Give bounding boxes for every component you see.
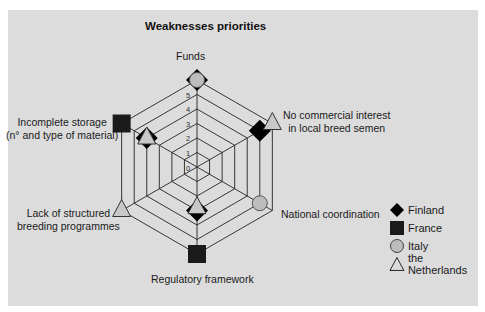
legend-item-finland: Finland xyxy=(389,201,485,219)
triangle-icon xyxy=(188,197,206,214)
chart-legend: Finland France Italy the Netherlands xyxy=(389,201,485,273)
axis-label-text: Funds xyxy=(176,50,205,62)
axis-label-text: (n° and type of material) xyxy=(6,129,118,142)
axis-label-no-commercial-interest: No commercial interest in local breed se… xyxy=(283,109,390,135)
legend-label: the Netherlands xyxy=(408,252,485,276)
circle-icon xyxy=(190,73,205,88)
svg-text:0: 0 xyxy=(186,164,190,173)
axis-label-funds: Funds xyxy=(176,50,205,63)
square-icon xyxy=(389,220,405,236)
axis-label-lack-of-breeding-programmes: Lack of structured breeding programmes xyxy=(17,207,120,233)
svg-text:3: 3 xyxy=(186,120,190,129)
axis-label-text: breeding programmes xyxy=(17,220,120,233)
svg-text:5: 5 xyxy=(186,91,190,100)
legend-item-the-netherlands: the Netherlands xyxy=(389,255,485,273)
svg-text:2: 2 xyxy=(186,134,190,143)
square-icon xyxy=(188,245,206,263)
circle-icon xyxy=(252,196,267,211)
triangle-icon xyxy=(263,113,281,130)
legend-item-france: France xyxy=(389,219,485,237)
axis-label-text: Incomplete storage xyxy=(6,116,118,129)
axis-label-text: Lack of structured xyxy=(17,207,120,220)
diamond-icon xyxy=(389,202,405,218)
svg-text:1: 1 xyxy=(186,149,190,158)
svg-text:4: 4 xyxy=(186,105,190,114)
circle-icon xyxy=(389,238,405,254)
radar-grid xyxy=(122,80,273,254)
axis-label-text: No commercial interest xyxy=(283,109,390,122)
axis-label-text: in local breed semen xyxy=(283,122,390,135)
legend-label: Italy xyxy=(408,240,428,252)
legend-label: France xyxy=(408,222,442,234)
legend-label: Finland xyxy=(408,204,444,216)
axis-label-text: National coordination xyxy=(281,208,380,220)
axis-label-incomplete-storage: Incomplete storage (n° and type of mater… xyxy=(6,116,118,142)
axis-label-national-coordination: National coordination xyxy=(281,208,380,221)
axis-label-regulatory-framework: Regulatory framework xyxy=(151,273,254,286)
triangle-icon xyxy=(389,256,405,272)
axis-label-text: Regulatory framework xyxy=(151,273,254,285)
